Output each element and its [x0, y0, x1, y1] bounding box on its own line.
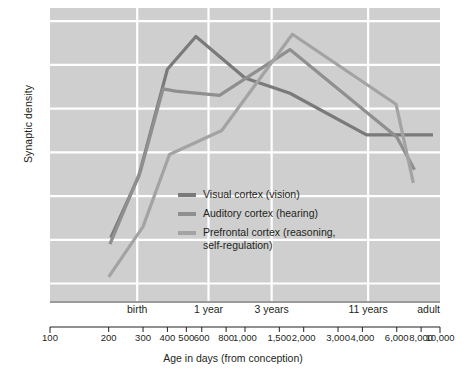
chart-legend: Visual cortex (vision)Auditory cortex (h… — [178, 188, 335, 258]
x-axis-title: Age in days (from conception) — [0, 352, 466, 364]
legend-swatch-icon — [178, 231, 196, 235]
x-category-label-11-years: 11 years — [348, 303, 388, 315]
log-tick-label-800: 800 — [218, 332, 234, 343]
legend-item: Auditory cortex (hearing) — [178, 207, 335, 220]
legend-label: Prefrontal cortex (reasoning, self-regul… — [203, 226, 335, 252]
y-axis-title: Synaptic density — [22, 34, 34, 214]
legend-swatch-icon — [178, 212, 196, 216]
log-tick-label-200: 200 — [101, 332, 117, 343]
legend-label: Auditory cortex (hearing) — [203, 207, 318, 220]
log-tick-label-1500: 1,500 — [267, 332, 291, 343]
log-tick-label-300: 300 — [135, 332, 151, 343]
log-tick-label-4000: 4,000 — [351, 332, 375, 343]
x-category-label-3-years: 3 years — [254, 303, 288, 315]
legend-swatch-icon — [178, 193, 196, 197]
log-tick-label-10000: 10,000 — [425, 332, 454, 343]
log-tick-label-600: 600 — [194, 332, 210, 343]
log-tick-label-2000: 2,000 — [292, 332, 316, 343]
legend-label: Visual cortex (vision) — [203, 188, 300, 201]
x-category-label-1-year: 1 year — [194, 303, 223, 315]
x-category-label-birth: birth — [127, 303, 147, 315]
x-category-label-adult: adult — [417, 303, 440, 315]
log-tick-label-3000: 3,000 — [326, 332, 350, 343]
legend-item: Prefrontal cortex (reasoning, self-regul… — [178, 226, 335, 252]
log-tick-label-1000: 1,000 — [233, 332, 257, 343]
synaptic-density-chart: Synaptic density 0102030405060 birth1 ye… — [0, 0, 466, 372]
log-tick-label-6000: 6,000 — [385, 332, 409, 343]
log-tick-label-500: 500 — [178, 332, 194, 343]
legend-item: Visual cortex (vision) — [178, 188, 335, 201]
log-tick-label-400: 400 — [159, 332, 175, 343]
log-tick-label-100: 100 — [42, 332, 58, 343]
